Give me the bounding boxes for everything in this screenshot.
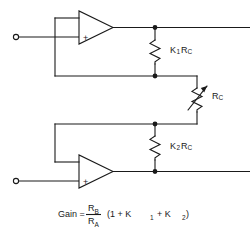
resistor-k1-label-k: K: [170, 45, 176, 55]
resistor-k1-label: K 1 R C: [170, 45, 193, 55]
circuit-diagram: + + K 1 R C R C K 2 R C Gain = R B: [0, 0, 250, 238]
bottom-op-amp-plus-symbol: +: [83, 177, 88, 187]
gain-formula-plus-mid-group: + K: [157, 209, 171, 219]
junction-dot-bottom-feedback: [153, 122, 158, 127]
resistor-k2-label-k: K: [170, 141, 176, 151]
resistor-k2-label-k-subscript: 2: [177, 144, 181, 151]
gain-formula-k1-subscript: 1: [150, 214, 154, 221]
gain-formula-open-paren-group: (1 + K: [107, 209, 131, 219]
resistor-k1-label-r-subscript: C: [188, 48, 193, 55]
resistor-k1-zigzag: [150, 40, 160, 64]
gain-formula-numerator-subscript: B: [95, 208, 99, 215]
bottom-input-terminal-circle: [13, 178, 18, 183]
junction-dot-bottom-output: [153, 169, 158, 174]
gain-formula-lead: Gain =: [58, 209, 85, 219]
top-op-amp-plus-symbol: +: [83, 33, 88, 43]
junction-dot-top-output: [153, 25, 158, 30]
variable-resistor-zigzag: [192, 88, 202, 112]
variable-resistor-arrow-head: [201, 86, 207, 92]
gain-formula-close-paren: ): [186, 209, 189, 219]
resistor-k2-label: K 2 R C: [170, 141, 193, 151]
resistor-k2-label-r-subscript: C: [188, 144, 193, 151]
variable-resistor-label-subscript: C: [219, 94, 224, 101]
top-input-terminal-circle: [13, 34, 18, 39]
gain-formula: Gain = R B R A (1 + K 1 + K 2 ): [58, 203, 189, 228]
resistor-k2-zigzag: [150, 136, 160, 160]
resistor-k1-label-k-subscript: 1: [177, 48, 181, 55]
gain-formula-denominator-subscript: A: [95, 221, 100, 228]
circuit-schematic-canvas: + + K 1 R C R C K 2 R C Gain = R B: [0, 0, 250, 238]
variable-resistor-label: R C: [212, 91, 224, 101]
